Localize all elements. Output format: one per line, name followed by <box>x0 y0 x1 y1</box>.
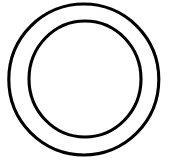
canvas-background <box>0 0 170 166</box>
concentric-circles-figure: Black line drawing of two concentric cir… <box>0 0 170 166</box>
drawing-canvas: Black line drawing of two concentric cir… <box>0 0 170 166</box>
